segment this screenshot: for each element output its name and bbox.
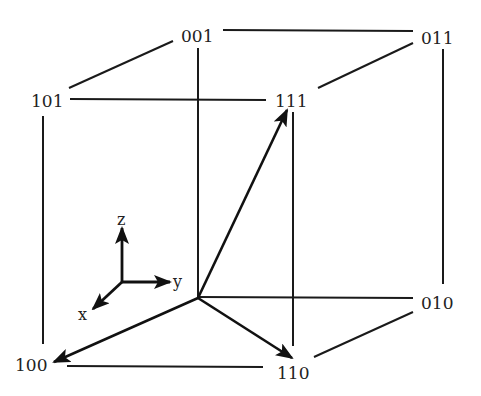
edge-001-011 [223, 30, 413, 31]
x-axis-arrow [93, 282, 122, 309]
vertex-label-101: 101 [31, 91, 63, 111]
y-axis-label: y [172, 272, 182, 291]
edge-101-001 [69, 41, 173, 88]
vector-to-111 [198, 110, 287, 298]
vertex-label-010: 010 [421, 293, 453, 313]
edge-101-111 [70, 99, 266, 100]
edge-111-011 [318, 43, 413, 88]
vertex-labels: 001 011 101 111 010 100 110 [15, 26, 453, 383]
axis-gizmo: z y x [78, 210, 182, 324]
vertex-label-110: 110 [277, 363, 309, 383]
cube-edges [43, 30, 443, 367]
x-axis-label: x [78, 305, 87, 324]
position-vectors [54, 110, 292, 362]
vector-to-100 [54, 298, 198, 362]
edge-110-010 [314, 312, 413, 357]
vertex-label-100: 100 [15, 355, 47, 375]
z-axis-label: z [117, 210, 125, 229]
edge-000-010 [198, 297, 413, 298]
vertex-label-011: 011 [421, 28, 453, 48]
vertex-label-001: 001 [181, 26, 213, 46]
vertex-label-111: 111 [275, 91, 307, 111]
edge-100-110 [67, 366, 263, 367]
vector-to-110 [198, 298, 292, 358]
boolean-cube-diagram: z y x 001 011 101 111 010 100 110 [0, 0, 481, 396]
